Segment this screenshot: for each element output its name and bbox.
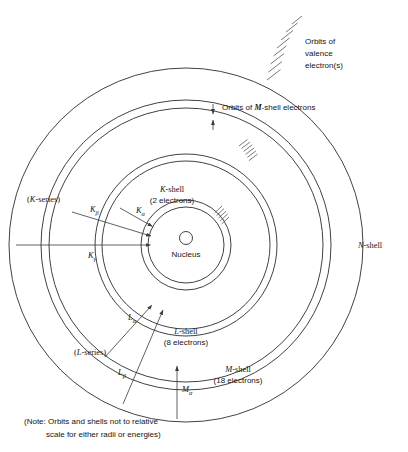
k-beta-label: Kβ xyxy=(89,205,100,216)
valence-callout-line2: valence xyxy=(305,49,333,58)
atomic-shell-diagram: Orbits of M-shell electrons Orbits of va… xyxy=(0,0,408,452)
k-series-label: (K-series) xyxy=(27,195,60,204)
k-alpha-label: Kα xyxy=(135,206,146,217)
note-line1: (Note: Orbits and shells not to relative xyxy=(24,417,158,426)
valence-callout-line1: Orbits of xyxy=(305,37,336,46)
valence-callout-line3: electron(s) xyxy=(305,61,343,70)
k-shell-ring-inner xyxy=(148,207,224,283)
l-beta-label: Lβ xyxy=(117,368,127,379)
k-shell-hatching xyxy=(215,206,230,224)
l-beta-arrow xyxy=(123,310,163,404)
m-shell-hatching xyxy=(239,140,258,161)
k-beta-arrow xyxy=(72,212,151,236)
m-shell-label-line1: M-shell xyxy=(224,365,251,374)
n-shell-label: N-shell xyxy=(357,241,383,250)
m-shell-label-line2: (18 electrons) xyxy=(214,376,263,385)
l-alpha-label: Lα xyxy=(127,313,137,324)
k-series-rays xyxy=(16,208,153,245)
l-shell-label-line2: (8 electrons) xyxy=(164,338,209,347)
m-alpha-label: Mα xyxy=(181,385,193,396)
k-shell-label-line1: K-shell xyxy=(159,185,185,194)
l-series-label: (L-series) xyxy=(74,348,106,357)
m-orbits-callout-label: Orbits of M-shell electrons xyxy=(222,103,315,112)
l-shell-label-line1: L-shell xyxy=(173,327,198,336)
nucleus-circle xyxy=(180,232,193,245)
nucleus-label: Nucleus xyxy=(172,250,201,259)
figure-canvas: Orbits of M-shell electrons Orbits of va… xyxy=(0,0,408,452)
k-shell-ring-outer xyxy=(141,200,231,290)
k-shell-label-line2: (2 electrons) xyxy=(150,196,195,205)
note-line2: scale for either radii or energies) xyxy=(46,430,161,439)
valence-orbit-hatching xyxy=(267,16,302,80)
